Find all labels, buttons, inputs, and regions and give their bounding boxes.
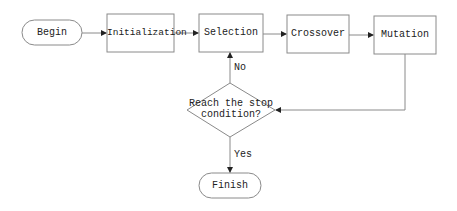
crossover-label: Crossover <box>287 28 349 40</box>
yes-edge-label: Yes <box>234 149 252 161</box>
mutation-label: Mutation <box>374 29 436 41</box>
initialization-label: Initialization <box>107 27 174 39</box>
finish-label: Finish <box>199 180 261 192</box>
no-edge-label: No <box>234 62 246 74</box>
selection-label: Selection <box>199 27 263 39</box>
decision-label-line2: condition? <box>187 109 275 121</box>
edge-mutation-decision <box>276 54 405 110</box>
begin-label: Begin <box>22 27 82 39</box>
